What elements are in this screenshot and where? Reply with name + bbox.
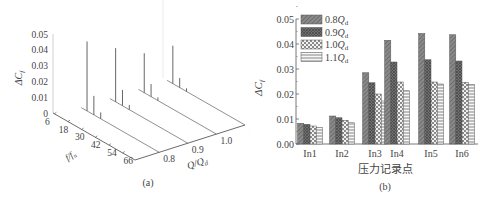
legend-swatch xyxy=(301,40,322,49)
legend-swatch xyxy=(301,53,322,62)
y-tick-label: 0.05 xyxy=(277,14,295,25)
f-axis-label: f/fn xyxy=(63,148,78,163)
bar xyxy=(375,94,381,144)
bar xyxy=(348,123,354,144)
bar xyxy=(431,82,437,144)
bar-group-in2 xyxy=(330,116,355,144)
bar-group-in5 xyxy=(419,34,444,145)
bar xyxy=(437,84,443,144)
x-tick-label: In5 xyxy=(424,148,437,159)
z-tick-label: 0.01 xyxy=(31,93,48,103)
legend-swatch xyxy=(301,28,322,37)
f-tick-label: 42 xyxy=(91,140,101,150)
f-tick-label: 6 xyxy=(45,117,50,127)
x-axis-label: 压力记录点 xyxy=(358,163,413,175)
y-tick-label: 0.01 xyxy=(277,114,295,125)
legend-label: 0.8Qd xyxy=(325,14,349,27)
bar xyxy=(403,91,409,144)
x-tick-label: In1 xyxy=(303,148,316,159)
bar-group-in1 xyxy=(298,123,323,144)
q-tick-label: 0.8 xyxy=(163,154,175,164)
legend-label: 0.9Qd xyxy=(325,27,349,40)
y-tick-label: 0.02 xyxy=(277,89,295,100)
spectrum-1_1Qd xyxy=(167,46,245,125)
z-tick-label: 0.03 xyxy=(31,61,48,71)
chart-b-bar-chart: 0.000.010.020.030.040.05ΔCfIn1In2In3In4I… xyxy=(250,0,485,200)
bar xyxy=(369,83,375,144)
z-axis-label: ΔCf xyxy=(13,70,26,87)
bar xyxy=(298,123,304,144)
bar xyxy=(450,35,456,144)
z-tick-label: 0.04 xyxy=(31,45,48,55)
x-tick-label: In6 xyxy=(455,148,468,159)
panel-label-b: (b) xyxy=(379,181,391,193)
bar xyxy=(363,73,369,144)
q-axis-label: Q/Qd xyxy=(185,154,209,173)
legend: 0.8Qd0.9Qd1.0Qd1.1Qd xyxy=(301,14,349,65)
z-tick-label: 0.05 xyxy=(31,30,48,40)
bar xyxy=(391,62,397,144)
bar xyxy=(425,60,431,144)
bar xyxy=(419,34,425,145)
bar xyxy=(342,120,348,144)
q-tick-label: 1.0 xyxy=(220,136,232,146)
chart-a-3d-spectrum: 00.010.020.030.040.05ΔCf61830425466f/fn0… xyxy=(0,0,250,200)
bar xyxy=(385,40,391,144)
y-tick-label: 0.03 xyxy=(277,64,295,75)
x-tick-label: In3 xyxy=(368,148,381,159)
x-tick-label: In2 xyxy=(335,148,348,159)
f-tick-label: 18 xyxy=(59,125,69,135)
y-axis-label: ΔCf xyxy=(252,79,266,97)
bar-group-in4 xyxy=(385,40,410,144)
bar xyxy=(456,61,462,144)
legend-swatch xyxy=(301,15,322,24)
legend-label: 1.0Qd xyxy=(325,39,349,52)
legend-label: 1.1Qd xyxy=(325,52,349,65)
bar-group-in6 xyxy=(450,35,475,144)
bar xyxy=(462,82,468,144)
y-tick-label: 0.00 xyxy=(277,139,295,150)
f-tick-label: 30 xyxy=(75,132,85,142)
chart-b-canvas: 0.000.010.020.030.040.05ΔCfIn1In2In3In4I… xyxy=(250,0,485,200)
z-tick-label: 0.02 xyxy=(31,77,48,87)
bar-group-in3 xyxy=(363,73,388,144)
q-tick-label: 0.9 xyxy=(192,145,204,155)
x-tick-label: In4 xyxy=(390,148,403,159)
bar xyxy=(397,82,403,144)
bar xyxy=(336,118,342,144)
bar xyxy=(330,116,336,144)
bar xyxy=(468,85,474,145)
bar xyxy=(316,128,322,145)
panel-label-a: (a) xyxy=(142,177,153,189)
bar xyxy=(304,124,310,144)
y-tick-label: 0.04 xyxy=(277,39,295,50)
f-tick-label: 66 xyxy=(123,156,133,166)
bar xyxy=(310,126,316,144)
chart-a-canvas: 00.010.020.030.040.05ΔCf61830425466f/fn0… xyxy=(0,0,250,200)
f-tick-label: 54 xyxy=(107,148,117,158)
